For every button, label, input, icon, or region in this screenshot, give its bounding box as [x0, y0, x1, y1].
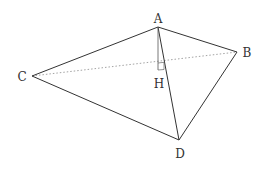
edge-ab [158, 27, 237, 52]
label-a: A [153, 12, 163, 26]
tetrahedron-diagram: A B C D H [0, 0, 262, 172]
label-h: H [154, 77, 164, 91]
label-c: C [17, 70, 26, 84]
label-b: B [243, 46, 252, 60]
edge-bd [179, 52, 237, 140]
label-d: D [175, 147, 185, 161]
right-angle-marker [158, 62, 164, 70]
